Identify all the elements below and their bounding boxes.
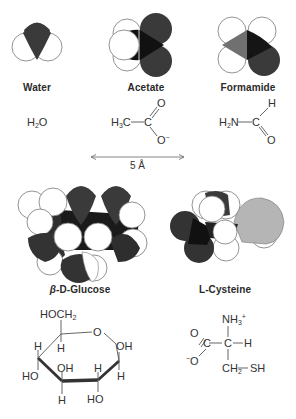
atom-o: O bbox=[190, 355, 199, 367]
glucose-c2-ho: HO bbox=[87, 393, 104, 405]
subscript: 2 bbox=[238, 368, 242, 375]
glucose-c4-ho: HO bbox=[22, 370, 39, 382]
acetate-label: Acetate bbox=[120, 82, 172, 93]
cysteine-oxygen-minus: −O bbox=[186, 355, 199, 367]
atom-o: O bbox=[39, 116, 48, 128]
glucose-c3-h: H bbox=[58, 394, 66, 406]
glucose-structure-bonds bbox=[38, 320, 119, 394]
glucose-c3-oh: OH bbox=[57, 362, 74, 374]
glucose-c1-h: H bbox=[117, 370, 125, 382]
formamide-amine: H2N bbox=[219, 116, 239, 129]
atom-c: C bbox=[123, 116, 131, 128]
atom-o: O bbox=[157, 134, 166, 146]
glucose-label-name: -D-Glucose bbox=[56, 284, 110, 295]
cysteine-oxygen-top: O bbox=[190, 327, 199, 339]
glucose-c5-h: H bbox=[57, 342, 65, 354]
cysteine-carboxyl-carbon: C bbox=[203, 337, 211, 349]
cysteine-ch2: CH2 bbox=[222, 362, 242, 375]
atom-n: N bbox=[231, 116, 239, 128]
water-formula: H2O bbox=[27, 116, 47, 129]
acetate-methyl: H3C bbox=[111, 116, 131, 129]
group-hoch: HOCH bbox=[40, 308, 72, 320]
charge: + bbox=[242, 313, 246, 320]
group-ch: CH bbox=[222, 362, 238, 374]
charge: − bbox=[166, 134, 170, 141]
formamide-hydrogen-top: H bbox=[268, 97, 276, 109]
formamide-carbon: C bbox=[252, 116, 260, 128]
glucose-c4-h: H bbox=[34, 340, 42, 352]
formamide-oxygen-bottom: O bbox=[267, 134, 276, 146]
subscript: 3 bbox=[238, 319, 242, 326]
cysteine-nh3: NH3+ bbox=[222, 313, 246, 326]
cysteine-label: L-Cysteine bbox=[190, 284, 260, 295]
scale-bar-label: 5 Å bbox=[130, 160, 145, 171]
glucose-ring-oxygen: O bbox=[93, 326, 102, 338]
glucose-c2-h: H bbox=[94, 362, 102, 374]
atom-h: H bbox=[27, 116, 35, 128]
cysteine-alpha-carbon: C bbox=[224, 337, 232, 349]
subscript: 2 bbox=[72, 314, 76, 321]
glucose-c1-oh: OH bbox=[116, 340, 133, 352]
water-model bbox=[12, 23, 62, 62]
formamide-model bbox=[218, 17, 280, 76]
water-label: Water bbox=[14, 82, 60, 93]
glucose-hoch2: HOCH2 bbox=[40, 308, 76, 321]
glucose-model bbox=[18, 186, 147, 283]
acetate-oxygen-bottom: O− bbox=[157, 134, 170, 146]
acetate-model bbox=[109, 13, 172, 77]
glucose-label: β-D-Glucose bbox=[40, 284, 120, 295]
cysteine-hydrogen: H bbox=[244, 337, 252, 349]
figure-canvas bbox=[0, 0, 296, 419]
acetate-oxygen-top: O bbox=[157, 97, 166, 109]
atom-h: H bbox=[219, 116, 227, 128]
scale-bar bbox=[91, 155, 184, 160]
acetate-carbon: C bbox=[144, 116, 152, 128]
group-nh: NH bbox=[222, 313, 238, 325]
atom-h: H bbox=[111, 116, 119, 128]
cysteine-model bbox=[170, 191, 284, 263]
formamide-label: Formamide bbox=[218, 82, 278, 93]
cysteine-sh: SH bbox=[250, 362, 265, 374]
